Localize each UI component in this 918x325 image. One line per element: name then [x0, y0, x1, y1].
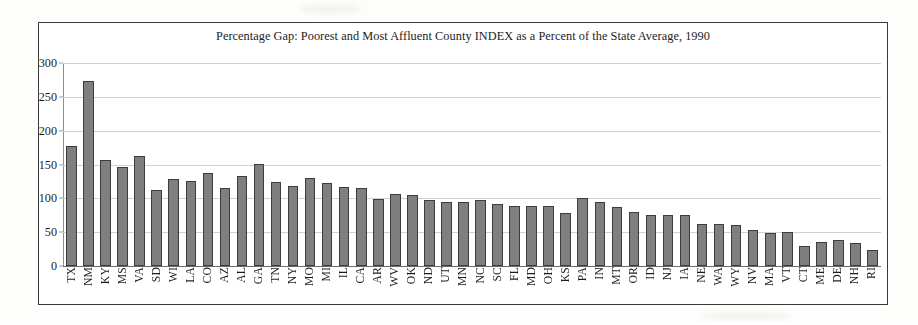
- x-tick-label-ND: ND: [423, 267, 435, 284]
- x-tick-label-MS: MS: [117, 267, 129, 284]
- y-tick-label-150: 150: [39, 157, 57, 172]
- bar-KS: [560, 213, 571, 266]
- x-tick-label-SD: SD: [151, 267, 163, 282]
- bar-TX: [66, 146, 77, 266]
- x-tick-label-AL: AL: [236, 267, 248, 283]
- x-tick-label-ID: ID: [645, 267, 657, 280]
- x-tick-label-KS: KS: [560, 267, 572, 282]
- x-tick-label-TN: TN: [270, 267, 282, 283]
- x-tick-label-WI: WI: [168, 267, 180, 282]
- x-tick-label-MD: MD: [526, 267, 538, 286]
- bar-UT: [441, 202, 452, 266]
- x-tick-label-VA: VA: [134, 267, 146, 283]
- bar-NE: [697, 224, 708, 266]
- chart-title: Percentage Gap: Poorest and Most Affluen…: [39, 29, 887, 44]
- x-tick-label-DE: DE: [832, 267, 844, 283]
- x-tick-label-PA: PA: [577, 267, 589, 281]
- x-tick-label-ME: ME: [815, 267, 827, 285]
- bar-NC: [475, 200, 486, 266]
- x-tick-label-UT: UT: [440, 267, 452, 283]
- x-tick-label-NV: NV: [747, 267, 759, 284]
- bar-ID: [646, 215, 657, 266]
- x-tick-label-AZ: AZ: [219, 267, 231, 283]
- bar-NV: [748, 230, 759, 266]
- bar-ME: [816, 242, 827, 266]
- bar-NH: [850, 243, 861, 266]
- x-tick-label-IA: IA: [679, 267, 691, 280]
- x-tick-label-CT: CT: [798, 267, 810, 282]
- bar-NJ: [663, 215, 674, 266]
- bar-OH: [543, 206, 554, 266]
- x-tick-label-NY: NY: [287, 267, 299, 284]
- x-tick-label-TX: TX: [66, 267, 78, 283]
- x-tick-label-MI: MI: [321, 267, 333, 282]
- bar-MS: [117, 167, 128, 266]
- y-tick-label-50: 50: [45, 225, 57, 240]
- bar-VT: [782, 232, 793, 267]
- bar-OK: [407, 195, 418, 266]
- bar-TN: [271, 182, 282, 266]
- bar-AR: [373, 199, 384, 266]
- x-tick-label-NM: NM: [83, 267, 95, 286]
- x-tick-label-IN: IN: [594, 267, 606, 280]
- bar-MN: [458, 202, 469, 266]
- x-tick-label-MT: MT: [611, 267, 623, 285]
- x-tick-label-MN: MN: [457, 267, 469, 286]
- bar-IN: [595, 202, 606, 266]
- x-tick-label-IL: IL: [338, 267, 350, 278]
- bar-SC: [492, 204, 503, 266]
- bar-LA: [186, 181, 197, 266]
- bar-WI: [168, 179, 179, 266]
- x-tick-label-WV: WV: [389, 267, 401, 287]
- bar-MO: [305, 178, 316, 266]
- bar-RI: [867, 250, 878, 266]
- x-tick-label-LA: LA: [185, 267, 197, 283]
- y-tick-label-200: 200: [39, 123, 57, 138]
- bar-KY: [100, 160, 111, 266]
- bar-MT: [612, 207, 623, 266]
- bar-VA: [134, 156, 145, 266]
- chart-frame: Percentage Gap: Poorest and Most Affluen…: [38, 22, 888, 305]
- bar-OR: [629, 212, 640, 266]
- x-tick-label-OH: OH: [543, 267, 555, 284]
- bar-NM: [83, 81, 94, 266]
- y-tick-label-100: 100: [39, 191, 57, 206]
- bars-layer: [63, 63, 881, 266]
- bar-MA: [765, 233, 776, 266]
- bar-GA: [254, 164, 265, 266]
- bar-PA: [577, 198, 588, 266]
- x-axis-tick-labels: TXNMKYMSVASDWILACOAZALGATNNYMOMIILCAARWV…: [63, 267, 881, 325]
- bar-CA: [356, 188, 367, 266]
- x-tick-label-NE: NE: [696, 267, 708, 283]
- x-tick-label-CO: CO: [202, 267, 214, 284]
- bar-WV: [390, 194, 401, 266]
- bar-ND: [424, 200, 435, 266]
- bar-NY: [288, 186, 299, 266]
- bar-AL: [237, 176, 248, 266]
- bar-AZ: [220, 188, 231, 266]
- x-tick-label-MA: MA: [764, 267, 776, 286]
- y-tick-label-300: 300: [39, 56, 57, 71]
- x-tick-label-RI: RI: [866, 267, 878, 279]
- x-tick-label-GA: GA: [253, 267, 265, 284]
- x-tick-label-OR: OR: [628, 267, 640, 284]
- x-tick-label-OK: OK: [406, 267, 418, 284]
- x-tick-label-CA: CA: [355, 267, 367, 284]
- bar-CT: [799, 246, 810, 266]
- x-tick-label-KY: KY: [100, 267, 112, 284]
- bar-CO: [203, 173, 214, 266]
- bar-SD: [151, 190, 162, 266]
- x-tick-label-MO: MO: [304, 267, 316, 286]
- bar-WA: [714, 224, 725, 266]
- bar-IA: [680, 215, 691, 266]
- bar-WY: [731, 225, 742, 266]
- x-tick-label-AR: AR: [372, 267, 384, 284]
- x-tick-label-NH: NH: [849, 267, 861, 284]
- x-tick-label-NJ: NJ: [662, 267, 674, 280]
- scan-smudge: [300, 4, 360, 14]
- x-tick-label-WY: WY: [730, 267, 742, 287]
- bar-MD: [526, 206, 537, 266]
- x-tick-label-SC: SC: [492, 267, 504, 282]
- x-tick-label-NC: NC: [475, 267, 487, 284]
